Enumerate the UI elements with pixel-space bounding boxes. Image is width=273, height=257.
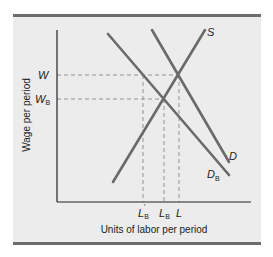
tick-lb: LB [159, 207, 170, 220]
y-axis-title: Wage per period [21, 78, 32, 152]
labor-market-diagram: S D DB W WB LB′ LB L Units of labor per … [0, 0, 273, 257]
tick-wb: WB [35, 93, 50, 106]
demand-bias-curve [108, 34, 229, 175]
label-db: DB [207, 168, 220, 182]
label-s: S [207, 26, 215, 38]
tick-lb-prime: LB′ [138, 203, 149, 220]
tick-l: L [176, 207, 182, 219]
label-d: D [229, 150, 237, 162]
tick-w: W [38, 69, 50, 81]
x-axis-title: Units of labor per period [101, 224, 208, 235]
supply-curve [113, 30, 205, 182]
